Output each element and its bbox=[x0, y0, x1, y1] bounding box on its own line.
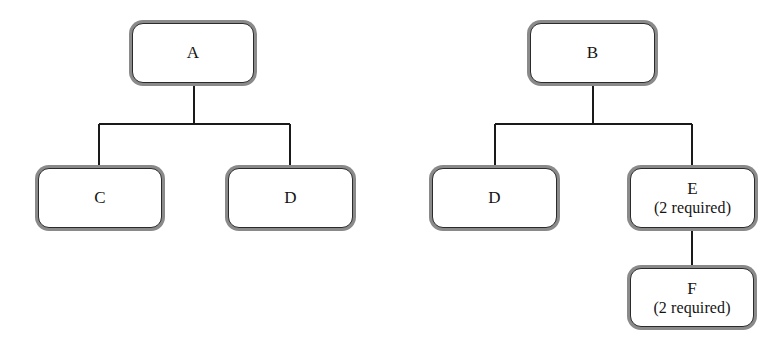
node-d-left-label: D bbox=[284, 188, 296, 207]
node-e-sublabel: (2 required) bbox=[654, 199, 731, 217]
node-d-right-label: D bbox=[488, 188, 500, 207]
node-c-label: C bbox=[94, 188, 106, 207]
node-a[interactable]: A bbox=[132, 23, 254, 83]
node-e-label: E bbox=[687, 179, 698, 198]
node-e[interactable]: E (2 required) bbox=[630, 168, 755, 228]
node-f-label: F bbox=[687, 279, 697, 298]
node-c[interactable]: C bbox=[38, 168, 162, 228]
node-d-right[interactable]: D bbox=[432, 168, 557, 228]
node-b-label: B bbox=[587, 43, 599, 62]
node-f[interactable]: F (2 required) bbox=[630, 268, 754, 327]
diagram-canvas: A C D B D E (2 required) F (2 required) bbox=[0, 0, 780, 353]
node-b[interactable]: B bbox=[530, 23, 655, 83]
node-f-sublabel: (2 required) bbox=[653, 299, 730, 317]
node-a-label: A bbox=[187, 43, 199, 62]
node-d-left[interactable]: D bbox=[228, 168, 353, 228]
